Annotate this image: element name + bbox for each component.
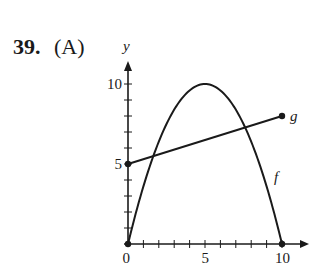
point-g (125, 161, 131, 167)
curve-f (128, 84, 282, 244)
y-axis-arrow-icon (124, 61, 132, 71)
y-tick-label: 10 (107, 76, 122, 92)
label-f: f (274, 169, 280, 185)
label-g: g (290, 108, 298, 124)
axes (124, 61, 309, 248)
x-tick-label: 5 (202, 250, 210, 266)
y-tick-label: 5 (115, 156, 123, 172)
point-f (279, 241, 285, 247)
x-axis-arrow-icon (300, 240, 309, 248)
function-graph: 0510510ygf (0, 0, 310, 267)
x-tick-label: 0 (123, 250, 131, 266)
curves (125, 84, 285, 247)
curve-g (128, 116, 282, 164)
y-axis-label: y (121, 38, 130, 54)
point-f (125, 241, 131, 247)
x-tick-label: 10 (275, 250, 290, 266)
point-g (279, 113, 285, 119)
axis-labels: 0510510ygf (107, 38, 298, 266)
